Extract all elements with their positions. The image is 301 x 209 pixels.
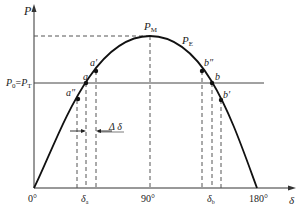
label-a: a (83, 71, 88, 82)
arrow-right-icon (81, 129, 86, 133)
label-a-prime: a′ (90, 57, 98, 68)
delta-b-label: δb (207, 193, 215, 205)
y-axis-label: P (23, 4, 32, 18)
curve-label: PE (181, 34, 193, 48)
tick-90: 90° (141, 193, 155, 204)
peak-label: PM (143, 20, 158, 34)
point-b-double-prime (200, 69, 204, 73)
x-axis-label: δ (289, 194, 295, 206)
point-a-prime (94, 69, 98, 73)
label-b-prime: b′ (223, 89, 231, 100)
power-curve (34, 36, 257, 188)
x-axis-arrow-icon (288, 186, 296, 191)
point-b (210, 81, 214, 85)
tick-0: 0° (28, 193, 37, 204)
tick-180: 180° (249, 193, 268, 204)
power-angle-diagram: P δ 0° 90° 180° PM PE P0=PT a a′ a″ b b′… (0, 0, 301, 209)
label-a-double-prime: a″ (66, 87, 76, 98)
point-a-double-prime (76, 97, 80, 101)
y-axis-arrow-icon (32, 4, 37, 12)
label-b: b (215, 71, 220, 82)
delta-a-label: δa (81, 193, 89, 205)
load-line-label: P0=PT (5, 77, 32, 90)
arrow-left-icon (96, 129, 101, 133)
label-b-double-prime: b″ (204, 57, 214, 68)
delta-increment-label: Δ δ (108, 121, 122, 132)
